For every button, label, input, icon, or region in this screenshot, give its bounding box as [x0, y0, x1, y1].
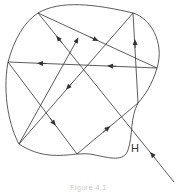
ray-arrow-6 — [50, 118, 54, 123]
reflection-diagram — [0, 0, 177, 196]
ray-arrow-2 — [58, 38, 62, 43]
label-h: H — [131, 143, 139, 154]
ray-a-c — [38, 13, 157, 68]
ray-b-e — [19, 13, 133, 144]
ray-d-f — [8, 62, 77, 154]
ray-e-end — [19, 40, 77, 144]
ray-arrow-7 — [103, 128, 108, 132]
ray-arrow-3 — [90, 37, 96, 40]
ray-c-d — [8, 62, 157, 68]
ray-g-b — [133, 13, 138, 103]
ray-arrow-1 — [152, 154, 155, 158]
figure-caption: Figure 4.1 — [0, 184, 177, 191]
ray-arrow-9 — [68, 83, 72, 88]
